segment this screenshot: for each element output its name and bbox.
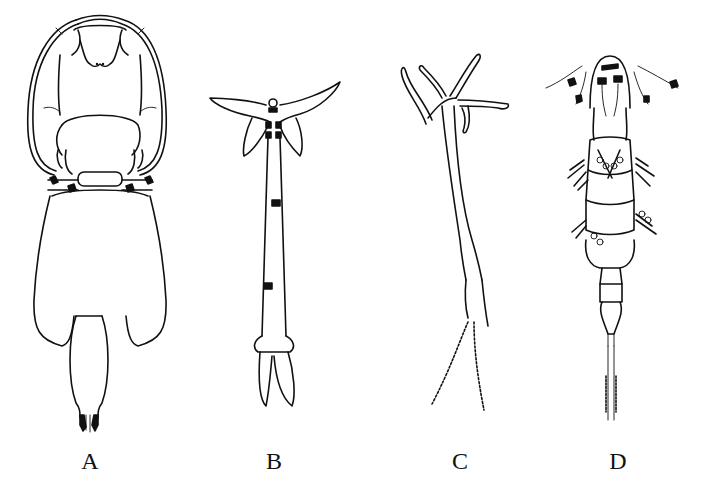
panel-c: C xyxy=(370,0,520,496)
panel-d: D xyxy=(520,0,708,496)
panel-label-b: B xyxy=(254,448,294,475)
copepod-a-drawing xyxy=(0,0,200,496)
copepod-d-drawing xyxy=(520,0,708,496)
panel-a: A xyxy=(0,0,200,496)
copepod-b-drawing xyxy=(200,0,350,496)
panel-label-a: A xyxy=(70,448,110,475)
copepod-c-drawing xyxy=(370,0,520,496)
panel-label-c: C xyxy=(440,448,480,475)
egg-strings xyxy=(432,322,484,410)
panel-label-d: D xyxy=(598,448,638,475)
panel-b: B xyxy=(200,0,350,496)
